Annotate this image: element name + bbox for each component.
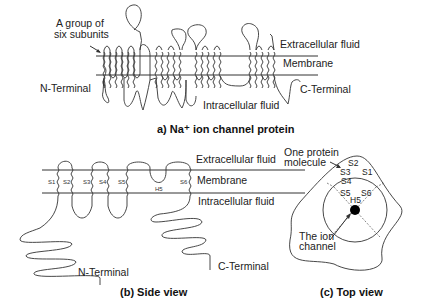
caption-a: a) Na⁺ ion channel protein	[157, 123, 295, 135]
seg-s1: S1	[48, 179, 56, 185]
label-membrane-a: Membrane	[283, 57, 333, 69]
seg-c-s6: S6	[361, 188, 372, 198]
label-extracellular-b: Extracellular fluid	[196, 153, 276, 165]
caption-c: (c) Top view	[320, 286, 383, 298]
label-group-2: six subunits	[54, 28, 109, 40]
seg-c-s1: S1	[362, 167, 373, 177]
label-intracellular-a: Intracellular fluid	[203, 99, 280, 111]
label-membrane-b: Membrane	[197, 174, 247, 186]
seg-s5: S5	[118, 179, 126, 185]
panel-c: S2 S3 S1 S4 S5 S6 H5 One protein molecul…	[284, 146, 402, 298]
label-c-terminal-a: C-Terminal	[300, 83, 351, 95]
seg-s3: S3	[83, 179, 91, 185]
caption-b: (b) Side view	[120, 286, 188, 298]
seg-s4: S4	[99, 179, 107, 185]
label-intracellular-b: Intracellular fluid	[198, 195, 275, 207]
ion-channel-diagram: A group of six subunits Extracellular fl…	[0, 0, 428, 305]
seg-s2: S2	[63, 179, 71, 185]
label-extracellular-a: Extracellular fluid	[280, 38, 360, 50]
label-channel-2: channel	[299, 240, 336, 252]
seg-h5: H5	[155, 186, 163, 192]
ion-channel-dot	[350, 205, 360, 215]
label-n-terminal-b: N-Terminal	[78, 266, 129, 278]
panel-b: S1 S2 S3 S4 S5 H5 S6 Extracellular fluid…	[20, 153, 305, 298]
seg-c-s4: S4	[341, 176, 352, 186]
label-n-terminal-a: N-Terminal	[40, 82, 91, 94]
panel-a: A group of six subunits Extracellular fl…	[40, 5, 360, 135]
seg-s6: S6	[180, 179, 188, 185]
label-c-terminal-b: C-Terminal	[218, 260, 269, 272]
label-molecule-2: molecule	[284, 156, 326, 168]
seg-c-h5: H5	[350, 195, 361, 205]
domain-2	[150, 29, 186, 108]
domain-3	[186, 25, 250, 106]
domain-1	[103, 5, 150, 110]
